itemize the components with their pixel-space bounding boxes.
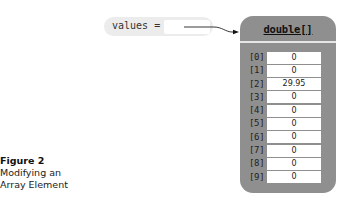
element-value: 0 [267, 118, 321, 130]
array-type-label: double[] [264, 23, 313, 35]
element-index: [2] [249, 78, 267, 91]
element-value: 0 [267, 52, 321, 64]
figure-caption: Figure 2 Modifying an Array Element [0, 155, 100, 191]
array-element-row: [8] 0 [240, 157, 336, 170]
element-value: 0 [267, 65, 321, 77]
element-index: [9] [249, 171, 267, 184]
element-index: [0] [249, 51, 267, 64]
element-value: 0 [267, 158, 321, 170]
array-element-row: [1] 0 [240, 64, 336, 77]
element-value: 0 [267, 145, 321, 157]
element-index: [8] [249, 157, 267, 170]
array-object: double[] [0] 0 [1] 0 [2] 29.95 [3] 0 [4]… [240, 16, 336, 193]
array-element-row: [4] 0 [240, 104, 336, 117]
array-element-row: [2] 29.95 [240, 78, 336, 91]
element-index: [6] [249, 131, 267, 144]
array-element-row: [5] 0 [240, 117, 336, 130]
array-element-row: [0] 0 [240, 51, 336, 64]
array-element-row: [7] 0 [240, 144, 336, 157]
caption-line-2: Array Element [0, 179, 100, 191]
element-index: [4] [249, 104, 267, 117]
element-value: 0 [267, 91, 321, 103]
element-value: 29.95 [267, 78, 321, 90]
element-index: [7] [249, 144, 267, 157]
array-element-row: [6] 0 [240, 131, 336, 144]
element-value: 0 [267, 171, 321, 183]
element-index: [1] [249, 64, 267, 77]
array-element-row: [3] 0 [240, 91, 336, 104]
array-header: double[] [240, 16, 336, 41]
element-index: [3] [249, 91, 267, 104]
array-element-row: [9] 0 [240, 171, 336, 184]
array-elements: [0] 0 [1] 0 [2] 29.95 [3] 0 [4] 0 [5] 0 … [240, 51, 336, 184]
array-header-divider [240, 41, 336, 43]
variable-label: values = [112, 19, 160, 33]
variable-reference-slot [164, 20, 210, 34]
element-value: 0 [267, 131, 321, 143]
caption-line-1: Modifying an [0, 167, 100, 179]
element-index: [5] [249, 117, 267, 130]
figure-number: Figure 2 [0, 155, 100, 167]
element-value: 0 [267, 105, 321, 117]
